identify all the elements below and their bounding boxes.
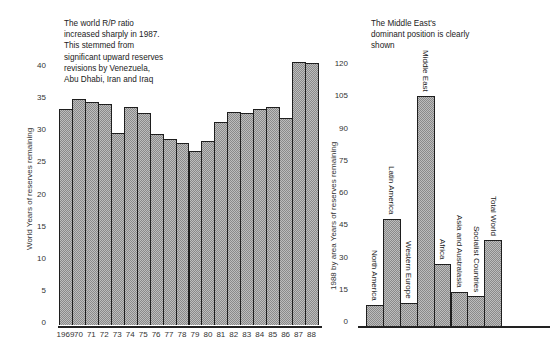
left-y-tick: 20 — [24, 190, 46, 200]
bar-western-europe — [400, 303, 418, 326]
bar-latin-america — [383, 219, 401, 326]
bar-74 — [124, 107, 138, 325]
bar-77 — [163, 139, 177, 325]
left-y-tick: 30 — [24, 125, 46, 135]
category-label-middle-east: Middle East — [420, 50, 430, 92]
left-x-axis-line — [58, 326, 322, 328]
category-label-total-world: Total World — [488, 196, 498, 236]
bar-80 — [201, 141, 215, 325]
category-label-socialist-countries: Socialist Countries — [471, 226, 481, 292]
bar-total-world — [484, 240, 502, 326]
bar-asia-and-australasia — [451, 292, 469, 326]
bar-middle-east — [417, 96, 435, 326]
left-y-tick: 40 — [24, 61, 46, 71]
left-y-tick: 10 — [24, 254, 46, 264]
category-label-asia-and-australasia: Asia and Australasia — [454, 215, 464, 288]
bar-84 — [253, 109, 267, 325]
right-y-tick: 120 — [326, 59, 348, 69]
right-y-tick: 75 — [326, 156, 348, 166]
bar-africa — [434, 264, 452, 326]
bar-87 — [292, 62, 306, 325]
bar-75 — [137, 113, 151, 325]
bar-78 — [176, 143, 190, 325]
bar-76 — [150, 134, 164, 325]
bar-north-america — [366, 305, 384, 326]
left-y-tick: 0 — [24, 318, 46, 328]
left-y-tick: 5 — [24, 286, 46, 296]
bar-83 — [240, 113, 254, 325]
bar-88 — [305, 63, 319, 325]
bar-1969 — [59, 109, 73, 325]
area-annotation: The Middle East's dominant position is c… — [371, 18, 541, 52]
right-y-tick: 45 — [326, 220, 348, 230]
bar-72 — [98, 104, 112, 325]
right-y-tick: 30 — [326, 253, 348, 263]
bar-socialist-countries — [467, 296, 485, 326]
left-y-tick: 15 — [24, 222, 46, 232]
bar-81 — [214, 122, 228, 325]
category-label-western-europe: Western Europe — [403, 241, 413, 299]
right-y-tick: 60 — [326, 188, 348, 198]
category-label-africa: Africa — [437, 239, 447, 259]
bar-70 — [72, 99, 86, 325]
bar-82 — [227, 112, 241, 325]
right-y-tick: 0 — [326, 317, 348, 327]
world-annotation: The world R/P ratio increased sharply in… — [64, 18, 234, 85]
right-y-tick: 105 — [326, 91, 348, 101]
x-tick-88: 88 — [301, 330, 322, 340]
right-y-tick: 15 — [326, 285, 348, 295]
bar-86 — [279, 118, 293, 325]
category-label-latin-america: Latin America — [386, 166, 396, 214]
bar-73 — [111, 133, 125, 325]
left-y-tick: 25 — [24, 157, 46, 167]
bar-79 — [189, 151, 203, 325]
right-x-axis-line — [358, 326, 550, 328]
left-y-tick: 35 — [24, 93, 46, 103]
category-label-north-america: North America — [369, 250, 379, 301]
bar-71 — [85, 102, 99, 325]
right-y-tick: 90 — [326, 124, 348, 134]
bar-85 — [266, 107, 280, 325]
